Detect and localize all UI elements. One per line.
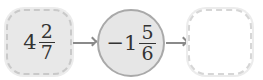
input-numerator: 2 — [39, 22, 55, 42]
arrow-right-icon — [166, 42, 186, 44]
input-fraction: 2 7 — [39, 22, 55, 63]
operator-numerator: 5 — [139, 23, 155, 43]
arrow-right-icon — [73, 42, 95, 44]
operator-denominator: 6 — [139, 44, 155, 64]
input-mixed-number: 4 2 7 — [23, 22, 54, 63]
operator-fraction: 5 6 — [139, 23, 155, 64]
operator-whole: −1 — [106, 33, 137, 54]
input-whole: 4 — [23, 32, 36, 53]
output-box[interactable] — [188, 9, 252, 75]
operator-mixed-number: −1 5 6 — [106, 23, 155, 64]
input-denominator: 7 — [39, 43, 55, 63]
input-box: 4 2 7 — [6, 9, 72, 75]
operator-circle: −1 5 6 — [97, 9, 165, 77]
